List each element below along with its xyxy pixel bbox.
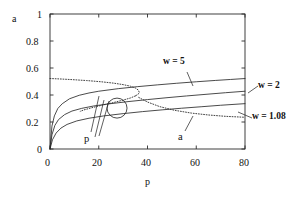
xtick-label-60: 60 [190,158,200,168]
series-label-w108: w = 1.08 [252,112,286,122]
series-label-w5: w = 5 [163,57,185,67]
series-label-w2: w = 2 [258,81,280,91]
y-axis-title: a [12,14,16,24]
ytick-label-0: 0 [37,145,42,155]
xtick-label-0: 0 [45,158,50,168]
a-branch-annotation: a [178,132,183,143]
ytick-label-06: 0.6 [26,64,39,74]
p-branch-annotation: p [84,134,89,145]
x-axis-title: p [145,177,150,187]
ytick-label-04: 0.4 [26,91,39,101]
xtick-label-40: 40 [141,158,151,168]
chart-background [0,0,304,201]
xtick-label-80: 80 [239,158,249,168]
ytick-label-08: 0.8 [26,37,39,47]
ytick-label-02: 0.2 [26,118,39,128]
xtick-label-20: 20 [92,158,102,168]
phase-diagram-chart [0,0,304,201]
ytick-label-1: 1 [37,10,42,20]
